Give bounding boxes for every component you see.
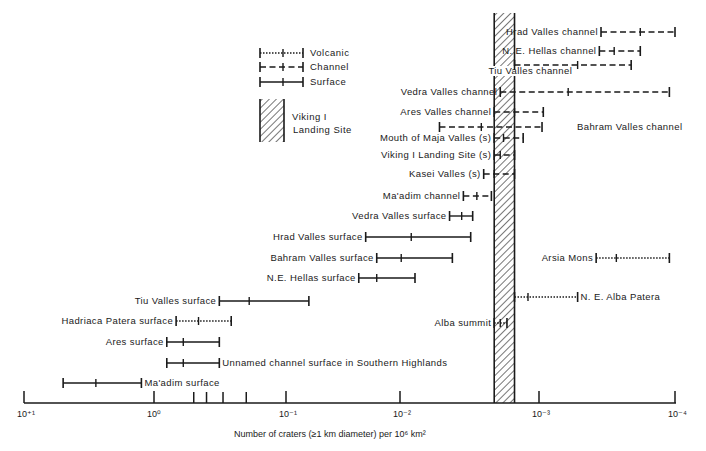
label-hrad-valles-channel: Hrad Valles channel [506,26,598,37]
interval-n-e-alba-patera: N. E. Alba Patera [515,291,661,302]
label-bahram-valles-surface: Bahram Valles surface [270,252,373,263]
legend-item-landing-site: Viking I Landing Site [260,99,352,142]
x-tick-label-6: 10⁻¹ [279,409,297,419]
label-mouth-of-maja-valles-s: Mouth of Maja Valles (s) [380,132,491,143]
x-tick-label-9: 10⁻⁴ [668,409,687,419]
interval-unnamed-channel-surface-in-southern-highlands: Unnamed channel surface in Southern High… [167,357,448,368]
legend-label-volcanic: Volcanic [310,47,349,58]
interval-ares-valles-channel: Ares Valles channel [400,106,543,117]
label-n-e-hellas-surface: N.E. Hellas surface [267,272,356,283]
label-ma-adim-surface: Ma'adim surface [144,377,219,388]
x-tick-label-1: 10⁰ [147,409,161,419]
interval-vedra-valles-channel: Vedra Valles channel [401,86,670,97]
interval-hrad-valles-surface: Hrad Valles surface [273,231,471,242]
x-axis: 10⁺¹10⁰10⁻¹10⁻²10⁻³10⁻⁴ [17,391,687,419]
label-ma-adim-channel: Ma'adim channel [383,190,461,201]
legend-line-volcanic [260,48,303,58]
x-tick-label-0: 10⁺¹ [17,409,35,419]
x-tick-label-7: 10⁻² [393,409,411,419]
legend-item-channel: Channel [260,61,349,72]
interval-arsia-mons: Arsia Mons [542,252,670,263]
interval-ma-adim-surface: Ma'adim surface [63,377,220,388]
interval-n-e-hellas-surface: N.E. Hellas surface [267,272,415,283]
legend-item-surface: Surface [260,76,346,87]
label-ares-valles-channel: Ares Valles channel [400,106,491,117]
label-n-e-alba-patera: N. E. Alba Patera [581,291,661,302]
legend-line-surface [260,77,303,87]
label-kasei-valles-s: Kasei Valles (s) [409,168,481,179]
label-arsia-mons: Arsia Mons [542,252,594,263]
legend-label-landing-line2: Landing Site [293,124,352,135]
legend-label-surface: Surface [310,76,346,87]
legend-swatch-hatched [260,99,284,142]
interval-tiu-valles-surface: Tiu Valles surface [135,295,309,306]
label-alba-summit: Alba summit [435,317,492,328]
label-bahram-valles-channel: Bahram Valles channel [577,121,682,132]
label-vedra-valles-surface: Vedra Valles surface [352,210,446,221]
interval-hadriaca-patera-surface: Hadriaca Patera surface [61,315,231,326]
x-tick-label-8: 10⁻³ [532,409,550,419]
label-unnamed-channel-surface-in-southern-highlands: Unnamed channel surface in Southern High… [222,357,447,368]
interval-vedra-valles-surface: Vedra Valles surface [352,210,473,221]
interval-ma-adim-channel: Ma'adim channel [383,190,492,201]
label-n-e-hellas-channel: N. E. Hellas channel [502,45,596,56]
interval-hrad-valles-channel: Hrad Valles channel [506,26,675,37]
interval-viking-i-landing-site-s: Viking I Landing Site (s) [381,149,514,160]
crater-density-chart: Volcanic Channel Surface Viking I Landin… [0,0,706,451]
label-tiu-valles-surface: Tiu Valles surface [135,295,217,306]
interval-n-e-hellas-channel: N. E. Hellas channel [502,45,640,56]
label-ares-surface: Ares surface [106,336,164,347]
label-vedra-valles-channel: Vedra Valles channel [401,86,498,97]
interval-bahram-valles-surface: Bahram Valles surface [270,252,452,263]
legend-label-channel: Channel [310,61,349,72]
intervals: Hrad Valles channelN. E. Hellas channelT… [61,26,682,388]
label-hrad-valles-surface: Hrad Valles surface [273,231,363,242]
legend: Volcanic Channel Surface Viking I Landin… [260,47,352,142]
legend-item-volcanic: Volcanic [260,47,349,58]
interval-ares-surface: Ares surface [106,336,220,347]
label-tiu-valles-channel: Tiu Valles channel [488,65,572,76]
label-viking-i-landing-site-s: Viking I Landing Site (s) [381,149,491,160]
interval-bahram-valles-channel: Bahram Valles channel [439,121,682,132]
label-hadriaca-patera-surface: Hadriaca Patera surface [61,315,173,326]
legend-line-channel [260,62,303,72]
x-axis-title: Number of craters (≥1 km diameter) per 1… [234,429,426,439]
legend-label-landing-line1: Viking I [292,111,327,122]
